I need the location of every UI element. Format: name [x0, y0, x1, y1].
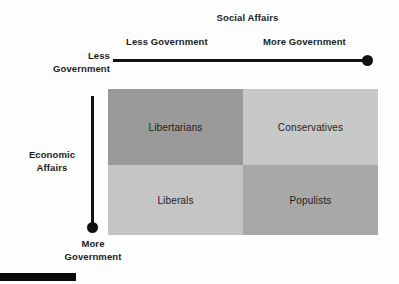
y-axis-bottom-label-line2: Government — [65, 251, 122, 262]
y-axis-line — [91, 96, 94, 225]
y-axis-title-line1: Economic — [29, 149, 75, 160]
y-axis-title-line2: Affairs — [37, 162, 68, 173]
quadrant-label-populists: Populists — [290, 195, 332, 206]
quadrant-conservatives: Conservatives — [243, 89, 378, 165]
quadrant-matrix: Libertarians Conservatives Liberals Popu… — [108, 89, 378, 235]
quadrant-label-liberals: Liberals — [157, 195, 193, 206]
ideology-quadrant-figure: Social Affairs Less Government More Gove… — [0, 0, 399, 284]
quadrant-label-conservatives: Conservatives — [278, 122, 343, 133]
y-axis-title: Economic Affairs — [0, 149, 104, 174]
x-axis-left-label: Less Government — [126, 36, 208, 49]
x-axis-title: Social Affairs — [0, 12, 399, 25]
y-axis-top-label-line1: Less — [88, 50, 110, 61]
y-axis-top-label: Less Government — [0, 50, 110, 75]
y-axis-endpoint-dot — [87, 222, 98, 233]
quadrant-label-libertarians: Libertarians — [148, 122, 202, 133]
x-axis-right-label: More Government — [263, 36, 346, 49]
quadrant-libertarians: Libertarians — [108, 89, 243, 165]
y-axis-bottom-label-line1: More — [81, 238, 104, 249]
y-axis-top-label-line2: Government — [53, 63, 110, 74]
bottom-left-black-bar — [0, 273, 76, 281]
quadrant-populists: Populists — [243, 165, 378, 235]
quadrant-liberals: Liberals — [108, 165, 243, 235]
x-axis-line — [113, 59, 365, 62]
x-axis-endpoint-dot — [362, 55, 373, 66]
y-axis-bottom-label: More Government — [48, 238, 138, 263]
